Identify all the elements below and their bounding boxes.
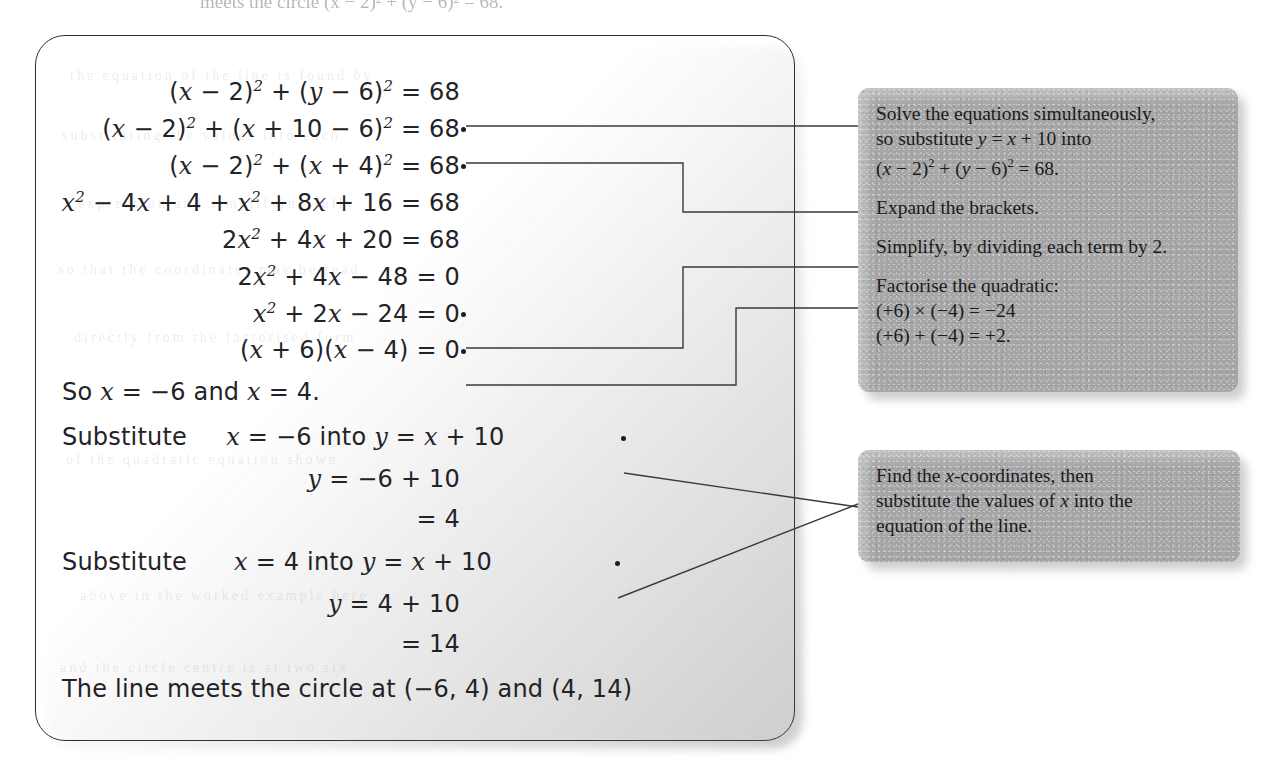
callout-box-coordinates-line-1: substitute the values of x into the bbox=[876, 488, 1224, 513]
callout-box-method-line-2: (x − 2)2 + (y − 6)2 = 68. bbox=[876, 151, 1222, 181]
callout-box-method-line-4: Simplify, by dividing each term by 2. bbox=[876, 234, 1222, 259]
working-line-eq6: 2x2 + 4x − 48 = 0 bbox=[238, 262, 460, 291]
callout-box-method-line-7: (+6) + (−4) = +2. bbox=[876, 323, 1222, 348]
connector-dot-pr3 bbox=[615, 561, 620, 566]
callout-box-method-line-0: Solve the equations simultaneously, bbox=[876, 101, 1222, 126]
callout-box-method-line-1: so substitute y = x + 10 into bbox=[876, 126, 1222, 151]
working-line-eq7: x2 + 2x − 24 = 0 bbox=[253, 299, 460, 328]
connector-dot-eq7 bbox=[461, 312, 466, 317]
working-line-eq9: y = −6 + 10 bbox=[308, 465, 460, 493]
working-line-eq1: (x − 2)2 + (y − 6)2 = 68 bbox=[169, 77, 460, 106]
working-line-eq4: x2 − 4x + 4 + x2 + 8x + 16 = 68 bbox=[62, 188, 460, 217]
working-line-eq8: (x + 6)(x − 4) = 0 bbox=[240, 336, 460, 364]
working-line-eq12: = 14 bbox=[401, 630, 460, 658]
working-line-pr1: So x = −6 and x = 4. bbox=[62, 378, 320, 406]
working-line-pr2: Substitute x = −6 into y = x + 10 bbox=[62, 423, 505, 451]
working-line-eq10: = 4 bbox=[416, 505, 460, 533]
cropped-header-line: meets the circle (x − 2)² + (y − 6)² = 6… bbox=[200, 0, 503, 13]
callout-box-method-line-5: Factorise the quadratic: bbox=[876, 273, 1222, 298]
callout-box-coordinates: Find the x-coordinates, thensubstitute t… bbox=[858, 450, 1240, 562]
callout-box-method-line-3: Expand the brackets. bbox=[876, 195, 1222, 220]
connector-dot-eq8 bbox=[461, 349, 466, 354]
callout-box-coordinates-line-2: equation of the line. bbox=[876, 513, 1224, 538]
connector-dot-eq2 bbox=[461, 127, 466, 132]
callout-box-coordinates-line-0: Find the x-coordinates, then bbox=[876, 463, 1224, 488]
working-lines: (x − 2)2 + (y − 6)2 = 68(x − 2)2 + (x + … bbox=[35, 35, 795, 741]
working-line-pr3: Substitute x = 4 into y = x + 10 bbox=[62, 548, 492, 576]
connector-dot-pr2 bbox=[621, 436, 626, 441]
working-line-pr4: The line meets the circle at (−6, 4) and… bbox=[62, 675, 632, 703]
working-line-eq2: (x − 2)2 + (x + 10 − 6)2 = 68 bbox=[102, 114, 460, 143]
connector-dot-eq3 bbox=[461, 164, 466, 169]
callout-box-method: Solve the equations simultaneously,so su… bbox=[858, 88, 1238, 392]
working-line-eq11: y = 4 + 10 bbox=[328, 590, 460, 618]
working-line-eq3: (x − 2)2 + (x + 4)2 = 68 bbox=[169, 151, 460, 180]
working-line-eq5: 2x2 + 4x + 20 = 68 bbox=[222, 225, 460, 254]
callout-box-method-line-6: (+6) × (−4) = −24 bbox=[876, 298, 1222, 323]
